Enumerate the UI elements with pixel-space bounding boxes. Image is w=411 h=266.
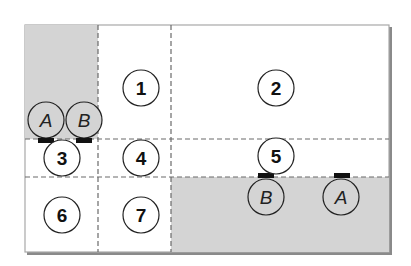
- cell-1: 1: [123, 70, 159, 106]
- marker-label: A: [39, 110, 53, 131]
- marker-label: B: [78, 110, 91, 131]
- cell-layout-diagram: ABBA 1234567: [0, 0, 411, 266]
- cell-number-label: 4: [136, 148, 147, 169]
- cell-5: 5: [258, 138, 294, 174]
- marker-a-bottom-right: A: [323, 179, 359, 215]
- cell-2: 2: [258, 70, 294, 106]
- connector-tab: [76, 138, 92, 143]
- cell-number-label: 3: [57, 148, 68, 169]
- cell-number-label: 5: [271, 146, 282, 167]
- cell-7: 7: [123, 197, 159, 233]
- cell-6: 6: [44, 197, 80, 233]
- cell-4: 4: [123, 140, 159, 176]
- cell-number-label: 6: [57, 205, 68, 226]
- connector-tab: [38, 138, 54, 143]
- marker-b-top-left: B: [66, 102, 102, 138]
- cell-3: 3: [44, 140, 80, 176]
- connector-tab: [334, 173, 350, 178]
- marker-b-bottom-right: B: [248, 179, 284, 215]
- cell-number-label: 2: [271, 78, 282, 99]
- marker-label: B: [260, 187, 273, 208]
- marker-label: A: [334, 187, 348, 208]
- marker-a-top-left: A: [28, 102, 64, 138]
- cell-number-label: 1: [136, 78, 147, 99]
- cell-number-label: 7: [136, 205, 147, 226]
